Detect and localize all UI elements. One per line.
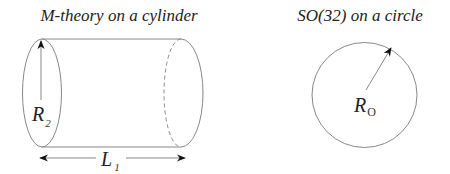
radius-label-r2: R2 [31, 103, 51, 129]
circle-panel: SO(32) on a circle RO [297, 6, 423, 148]
length-label-l1: L1 [100, 148, 120, 173]
radius-label-r0: RO [353, 94, 376, 119]
cylinder-right-end-hidden [164, 39, 181, 147]
cylinder-right-end-front [181, 39, 203, 147]
cylinder-left-end-ellipse [23, 39, 62, 147]
cylinder-panel: M-theory on a cylinder R2 L1 [23, 6, 204, 173]
radius-arrow-r0 [366, 48, 391, 90]
circle-title: SO(32) on a circle [297, 6, 423, 25]
diagram-canvas: M-theory on a cylinder R2 L1 SO(32) on a… [0, 0, 450, 174]
cylinder-title: M-theory on a cylinder [39, 6, 198, 25]
